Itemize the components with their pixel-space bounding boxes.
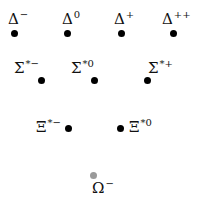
sigma-dot-icon <box>38 77 45 84</box>
delta-dot-icon <box>118 30 125 37</box>
xi-dot-icon <box>117 125 124 132</box>
sigma-label: Σ*+ <box>148 61 173 76</box>
delta-dot-icon <box>170 30 177 37</box>
sigma-dot-icon <box>144 77 151 84</box>
omega-label: Ω− <box>92 181 114 196</box>
sigma-label: Σ*− <box>14 61 39 76</box>
delta-label: Δ− <box>8 12 28 27</box>
delta-dot-icon <box>11 30 18 37</box>
xi-label: Ξ*0 <box>129 120 152 135</box>
sigma-label: Σ*0 <box>71 61 94 76</box>
xi-label: Ξ*− <box>36 120 61 135</box>
delta-dot-icon <box>64 30 71 37</box>
sigma-dot-icon <box>91 77 98 84</box>
omega-dot-icon <box>90 172 97 179</box>
delta-label: Δ0 <box>62 12 80 27</box>
delta-label: Δ++ <box>162 12 191 27</box>
xi-dot-icon <box>65 125 72 132</box>
delta-label: Δ+ <box>114 12 134 27</box>
